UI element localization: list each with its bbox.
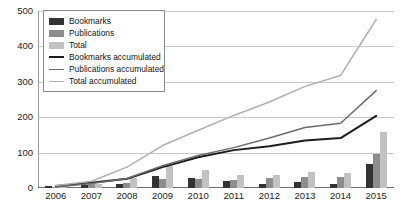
legend-item-bookmarks-accumulated: Bookmarks accumulated <box>49 51 159 63</box>
x-tick-label: 2006 <box>38 190 74 212</box>
chart-container: 500 400 300 200 100 0 2006 2007 2008 200… <box>0 0 405 214</box>
legend-swatch-icon <box>49 30 64 37</box>
legend-item-bookmarks: Bookmarks <box>49 15 159 27</box>
legend-item-publications-accumulated: Publications accumulated <box>49 63 159 75</box>
x-tick-label: 2012 <box>252 190 288 212</box>
legend-line-icon <box>49 81 64 82</box>
legend-label: Total <box>69 39 87 51</box>
x-tick-label: 2014 <box>323 190 359 212</box>
y-tick-label: 300 <box>3 76 33 87</box>
chart-legend: Bookmarks Publications Total Bookmarks a… <box>43 10 165 92</box>
x-tick-label: 2010 <box>180 190 216 212</box>
x-tick-label: 2008 <box>109 190 145 212</box>
x-tick-label: 2009 <box>145 190 181 212</box>
legend-swatch-icon <box>49 18 64 25</box>
y-tick-label: 400 <box>3 40 33 51</box>
y-tick-label: 0 <box>3 182 33 193</box>
legend-label: Bookmarks accumulated <box>69 51 161 63</box>
x-tick-label: 2007 <box>74 190 110 212</box>
legend-item-publications: Publications <box>49 27 159 39</box>
legend-label: Publications <box>69 27 114 39</box>
legend-line-icon <box>49 56 64 58</box>
legend-line-icon <box>49 69 64 70</box>
legend-label: Total accumulated <box>69 75 137 87</box>
legend-label: Publications accumulated <box>69 63 164 75</box>
x-tick-label: 2015 <box>358 190 394 212</box>
y-tick-label: 100 <box>3 147 33 158</box>
legend-item-total-accumulated: Total accumulated <box>49 75 159 87</box>
y-tick-label: 500 <box>3 5 33 16</box>
legend-swatch-icon <box>49 42 64 49</box>
x-tick-label: 2013 <box>287 190 323 212</box>
legend-label: Bookmarks <box>69 15 111 27</box>
x-axis-labels: 2006 2007 2008 2009 2010 2011 2012 2013 … <box>38 190 394 212</box>
y-tick-label: 200 <box>3 111 33 122</box>
x-tick-label: 2011 <box>216 190 252 212</box>
legend-item-total: Total <box>49 39 159 51</box>
